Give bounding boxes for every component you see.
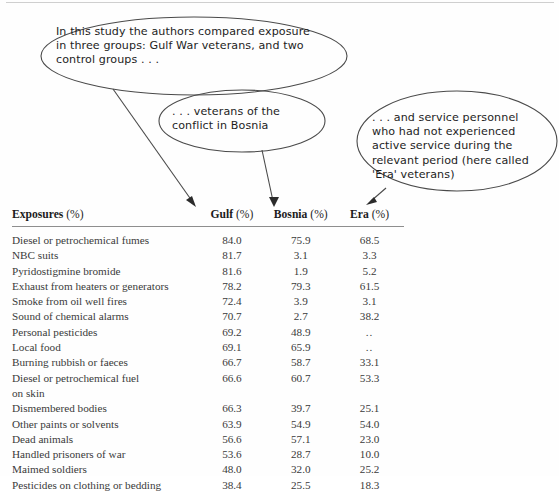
column-header-gulf: Gulf (%)	[198, 208, 267, 227]
cell-era-value	[335, 386, 404, 401]
cell-gulf-value: 69.1	[198, 340, 267, 355]
cell-bosnia-value: 48.9	[266, 325, 335, 340]
table-row: Diesel or petrochemical fuel66.660.753.3	[12, 371, 404, 386]
column-header-bosnia-label: Bosnia	[274, 208, 308, 221]
cell-bosnia-value: 79.3	[266, 279, 335, 294]
cell-exposure-label: Pesticides on clothing or bedding	[12, 478, 198, 493]
table-header-row: Exposures (%) Gulf (%) Bosnia (%) Era (%…	[12, 208, 404, 227]
table-row: Diesel or petrochemical fumes84.075.968.…	[12, 227, 404, 249]
cell-era-value: 23.0	[335, 432, 404, 447]
table-row: Sound of chemical alarms70.72.738.2	[12, 309, 404, 324]
cell-era-value: 18.3	[335, 478, 404, 493]
cell-bosnia-value: 3.9	[266, 294, 335, 309]
cell-gulf-value: 84.0	[198, 227, 267, 249]
column-header-exposures-unit: (%)	[66, 208, 83, 221]
column-header-era-label: Era	[350, 208, 369, 221]
cell-era-value: 25.2	[335, 462, 404, 477]
cell-bosnia-value: 1.9	[266, 264, 335, 279]
table-header: Exposures (%) Gulf (%) Bosnia (%) Era (%…	[12, 208, 404, 227]
cell-era-value: 38.2	[335, 309, 404, 324]
cell-gulf-value: 63.9	[198, 417, 267, 432]
cell-gulf-value: 53.6	[198, 447, 267, 462]
cell-gulf-value: 66.3	[198, 401, 267, 416]
column-header-gulf-unit: (%)	[236, 208, 253, 221]
cell-gulf-value	[198, 386, 267, 401]
cell-exposure-label: Diesel or petrochemical fuel	[12, 371, 198, 386]
cell-era-value: 54.0	[335, 417, 404, 432]
table-row: Personal pesticides69.248.9..	[12, 325, 404, 340]
column-header-gulf-label: Gulf	[210, 208, 233, 221]
callout-gulf-war-veterans-text: In this study the authors compared expos…	[56, 25, 324, 68]
cell-gulf-value: 48.0	[198, 462, 267, 477]
cell-exposure-label: Burning rubbish or faeces	[12, 355, 198, 370]
table-row: Burning rubbish or faeces66.758.733.1	[12, 355, 404, 370]
cell-era-value: ..	[335, 340, 404, 355]
cell-bosnia-value: 75.9	[266, 227, 335, 249]
cell-bosnia-value: 39.7	[266, 401, 335, 416]
cell-era-value: 5.2	[335, 264, 404, 279]
cell-era-value: 10.0	[335, 447, 404, 462]
cell-gulf-value: 66.7	[198, 355, 267, 370]
cell-bosnia-value: 3.1	[266, 248, 335, 263]
cell-exposure-label: Smoke from oil well fires	[12, 294, 198, 309]
table-row: Local food69.165.9..	[12, 340, 404, 355]
cell-era-value: 3.1	[335, 294, 404, 309]
exposures-table: Exposures (%) Gulf (%) Bosnia (%) Era (%…	[12, 208, 404, 493]
cell-exposure-label: Diesel or petrochemical fumes	[12, 227, 198, 249]
column-header-exposures-label: Exposures	[12, 208, 63, 221]
cell-exposure-label: Local food	[12, 340, 198, 355]
cell-exposure-label: NBC suits	[12, 248, 198, 263]
table-row: Handled prisoners of war53.628.710.0	[12, 447, 404, 462]
cell-gulf-value: 78.2	[198, 279, 267, 294]
column-header-exposures: Exposures (%)	[12, 208, 198, 227]
cell-gulf-value: 69.2	[198, 325, 267, 340]
cell-exposure-label: Sound of chemical alarms	[12, 309, 198, 324]
table-row: Other paints or solvents63.954.954.0	[12, 417, 404, 432]
table-row: Maimed soldiers48.032.025.2	[12, 462, 404, 477]
cell-era-value: 68.5	[335, 227, 404, 249]
cell-exposure-label: on skin	[12, 386, 198, 401]
table-row: Dismembered bodies66.339.725.1	[12, 401, 404, 416]
cell-gulf-value: 56.6	[198, 432, 267, 447]
table-row: Exhaust from heaters or generators78.279…	[12, 279, 404, 294]
cell-gulf-value: 66.6	[198, 371, 267, 386]
cell-bosnia-value: 28.7	[266, 447, 335, 462]
cell-bosnia-value: 25.5	[266, 478, 335, 493]
cell-gulf-value: 81.6	[198, 264, 267, 279]
table-body: Diesel or petrochemical fumes84.075.968.…	[12, 227, 404, 493]
callout-era-veterans-text: . . . and service personnel who had not …	[372, 111, 548, 182]
cell-bosnia-value: 32.0	[266, 462, 335, 477]
cell-gulf-value: 72.4	[198, 294, 267, 309]
table-row: NBC suits81.73.13.3	[12, 248, 404, 263]
cell-era-value: 3.3	[335, 248, 404, 263]
cell-exposure-label: Handled prisoners of war	[12, 447, 198, 462]
table-row: Pesticides on clothing or bedding38.425.…	[12, 478, 404, 493]
cell-exposure-label: Pyridostigmine bromide	[12, 264, 198, 279]
cell-exposure-label: Dead animals	[12, 432, 198, 447]
cell-exposure-label: Maimed soldiers	[12, 462, 198, 477]
cell-gulf-value: 70.7	[198, 309, 267, 324]
cell-bosnia-value: 65.9	[266, 340, 335, 355]
cell-bosnia-value: 2.7	[266, 309, 335, 324]
cell-era-value: 61.5	[335, 279, 404, 294]
cell-bosnia-value: 58.7	[266, 355, 335, 370]
cell-exposure-label: Other paints or solvents	[12, 417, 198, 432]
cell-gulf-value: 81.7	[198, 248, 267, 263]
cell-bosnia-value: 54.9	[266, 417, 335, 432]
arrow-to-bosnia-column	[262, 150, 279, 207]
cell-exposure-label: Dismembered bodies	[12, 401, 198, 416]
column-header-bosnia-unit: (%)	[310, 208, 327, 221]
cell-gulf-value: 38.4	[198, 478, 267, 493]
cell-exposure-label: Personal pesticides	[12, 325, 198, 340]
column-header-era: Era (%)	[335, 208, 404, 227]
table-row: Smoke from oil well fires72.43.93.1	[12, 294, 404, 309]
cell-exposure-label: Exhaust from heaters or generators	[12, 279, 198, 294]
callout-bosnia-veterans-text: . . . veterans of the conflict in Bosnia	[172, 105, 312, 133]
cell-bosnia-value: 57.1	[266, 432, 335, 447]
arrow-to-era-column	[366, 188, 386, 205]
table-row: Pyridostigmine bromide81.61.95.2	[12, 264, 404, 279]
table-row: Dead animals56.657.123.0	[12, 432, 404, 447]
column-header-era-unit: (%)	[372, 208, 389, 221]
table-row: on skin	[12, 386, 404, 401]
